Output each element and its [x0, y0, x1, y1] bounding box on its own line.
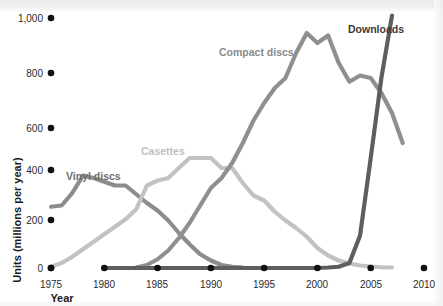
x-tick-label-1985: 1985: [146, 279, 169, 290]
y-tick-label-400: 400: [26, 165, 43, 176]
x-tick-marker-2010: [421, 265, 428, 272]
x-tick-label-2005: 2005: [360, 279, 383, 290]
y-tick-marker-200: [48, 217, 55, 224]
y-tick-label-0: 0: [37, 263, 43, 274]
x-tick-label-2010: 2010: [413, 279, 436, 290]
series-label-vinyl-discs: Vinyl discs: [66, 170, 121, 182]
y-axis-title: Units (millions per year): [11, 157, 23, 283]
x-tick-marker-2005: [367, 265, 374, 272]
x-tick-marker-2000: [314, 265, 321, 272]
y-tick-label-1000: 1,000: [18, 13, 43, 24]
series-label-downloads: Downloads: [348, 23, 404, 35]
x-axis-title: Year: [50, 292, 74, 304]
y-tick-marker-1000: [48, 15, 55, 22]
line-chart-plot: 1,000 800 600 400 200 0 1975 1980 1985 1…: [0, 0, 443, 306]
x-tick-label-1975: 1975: [40, 279, 63, 290]
y-tick-label-800: 800: [26, 68, 43, 79]
series-label-compact-discs: Compact discs: [219, 46, 294, 58]
chart-container: 1,000 800 600 400 200 0 1975 1980 1985 1…: [0, 0, 443, 306]
y-tick-label-200: 200: [26, 215, 43, 226]
y-tick-marker-0: [48, 265, 55, 272]
y-tick-label-600: 600: [26, 123, 43, 134]
y-axis-tick-markers: [48, 15, 55, 272]
series-label-casettes: Casettes: [141, 145, 185, 157]
y-tick-marker-600: [48, 125, 55, 132]
x-tick-marker-1990: [208, 265, 215, 272]
x-tick-marker-1980: [101, 265, 108, 272]
y-tick-marker-800: [48, 70, 55, 77]
x-tick-label-1980: 1980: [93, 279, 116, 290]
x-tick-label-1990: 1990: [200, 279, 223, 290]
y-tick-marker-400: [48, 167, 55, 174]
x-tick-label-2000: 2000: [306, 279, 329, 290]
x-tick-marker-1995: [261, 265, 268, 272]
x-tick-marker-1985: [154, 265, 161, 272]
x-tick-label-1995: 1995: [253, 279, 276, 290]
